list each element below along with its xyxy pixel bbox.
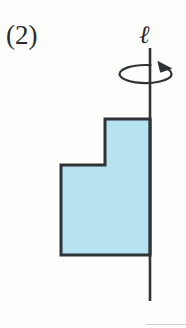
figure-container: (2) ℓ (0, 0, 186, 328)
l-shaped-region (61, 119, 150, 255)
bottom-rule-divider (146, 324, 186, 325)
rotation-arrow (120, 62, 172, 83)
figure-number-label: (2) (6, 22, 37, 49)
axis-label-ell: ℓ (139, 22, 149, 47)
